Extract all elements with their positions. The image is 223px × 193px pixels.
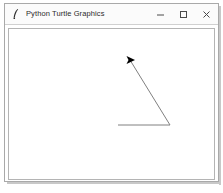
python-feather-icon <box>9 7 23 21</box>
maximize-button[interactable] <box>172 4 195 24</box>
turtle-graphics-window: Python Turtle Graphics <box>4 3 219 182</box>
minimize-icon <box>156 10 165 19</box>
close-button[interactable] <box>195 4 218 24</box>
screen: Python Turtle Graphics <box>0 0 223 193</box>
minimize-button[interactable] <box>149 4 172 24</box>
window-shadow-right <box>219 6 221 185</box>
diagonal-ray <box>130 60 170 125</box>
window-shadow-bottom <box>7 182 221 184</box>
turtle-cursor <box>127 56 136 64</box>
canvas-frame <box>8 28 215 180</box>
maximize-icon <box>179 10 188 19</box>
pen-paths <box>118 60 170 125</box>
close-icon <box>202 10 211 19</box>
turtle-drawing-canvas[interactable] <box>9 29 214 179</box>
window-title: Python Turtle Graphics <box>26 10 149 18</box>
turtle-arrow-icon <box>127 56 136 64</box>
title-bar[interactable]: Python Turtle Graphics <box>5 4 218 25</box>
